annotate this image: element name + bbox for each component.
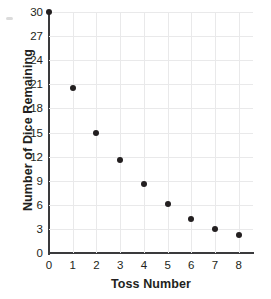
y-axis-tick-label: 3 [37,223,43,235]
y-axis-tick-label: 18 [30,102,43,114]
gridline-vertical [215,12,216,253]
x-axis-tick-label: 7 [212,259,218,271]
x-axis-tick-label: 4 [141,259,147,271]
gridline-vertical [73,12,74,253]
gridline-horizontal [49,205,253,206]
data-point [236,232,242,238]
gridline-vertical [120,12,121,253]
data-point [165,201,171,207]
scatter-plot-figure: Number of Dice Remaining 036912151821242… [0,0,271,299]
data-point [70,85,76,91]
gridline-horizontal [49,84,253,85]
x-axis-tick-label: 2 [93,259,99,271]
y-axis-tick-label: 30 [30,6,43,18]
data-point [117,157,123,163]
x-axis-tick-label: 1 [70,259,76,271]
y-axis-tick-label: 12 [30,151,43,163]
y-axis-tick-label: 0 [37,247,43,259]
gridline-vertical [239,12,240,253]
gridline-vertical [144,12,145,253]
x-axis-tick-label: 0 [46,259,52,271]
y-axis-tick-label: 6 [37,199,43,211]
x-axis-tick-label: 3 [117,259,123,271]
gridline-horizontal [49,229,253,230]
gridline-horizontal [49,36,253,37]
y-axis-tick-label: 27 [30,30,43,42]
gridline-horizontal [49,108,253,109]
y-axis-tick-label: 15 [30,127,43,139]
y-axis-tick-label: 21 [30,78,43,90]
data-point [212,226,218,232]
scan-artifact [6,17,13,20]
data-point [46,9,52,15]
x-axis-tick-label: 6 [188,259,194,271]
gridline-vertical [168,12,169,253]
data-point [141,181,147,187]
gridline-horizontal [49,181,253,182]
y-axis-tick-label: 24 [30,54,43,66]
y-axis-tick-label: 9 [37,175,43,187]
gridline-horizontal [49,157,253,158]
x-axis-title: Toss Number [49,277,253,291]
x-axis-tick-label: 5 [164,259,170,271]
data-point [93,130,99,136]
gridline-horizontal [49,12,253,13]
data-point [188,216,194,222]
gridline-horizontal [49,60,253,61]
plot-area: 036912151821242730012345678 [49,12,253,253]
x-axis-tick-label: 8 [236,259,242,271]
gridline-horizontal [49,133,253,134]
